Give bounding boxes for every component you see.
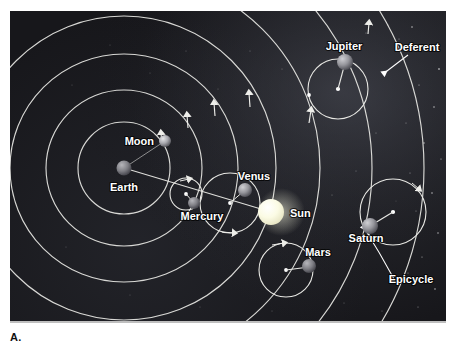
- moon-body: [159, 135, 171, 147]
- jupiter-label: Jupiter: [326, 40, 363, 52]
- moon-label: Moon: [125, 135, 155, 147]
- venus-body: [238, 183, 252, 197]
- jupiter-deferent-node: [307, 93, 311, 97]
- deferent-label: Deferent: [395, 41, 440, 53]
- jupiter-body: [337, 54, 353, 70]
- ptolemaic-diagram-panel: Earth Moon Mercury Venus Sun Mars Jupite…: [10, 11, 446, 321]
- mars-label: Mars: [305, 246, 331, 258]
- earth-label: Earth: [110, 181, 138, 193]
- figure-panel-label: A.: [10, 331, 21, 343]
- ptolemaic-diagram-svg: Earth Moon Mercury Venus Sun Mars Jupite…: [10, 11, 446, 321]
- mercury-body: [188, 197, 200, 209]
- panel-bottom-rule: [10, 321, 446, 323]
- saturn-label: Saturn: [349, 232, 384, 244]
- mercury-label: Mercury: [181, 210, 225, 222]
- figure-container: Earth Moon Mercury Venus Sun Mars Jupite…: [0, 0, 458, 351]
- venus-label: Venus: [238, 170, 270, 182]
- epicycle-label: Epicycle: [389, 273, 434, 285]
- sun-body: [258, 199, 284, 225]
- mars-body: [302, 259, 316, 273]
- earth-body: [117, 161, 132, 176]
- sun-label: Sun: [290, 207, 311, 219]
